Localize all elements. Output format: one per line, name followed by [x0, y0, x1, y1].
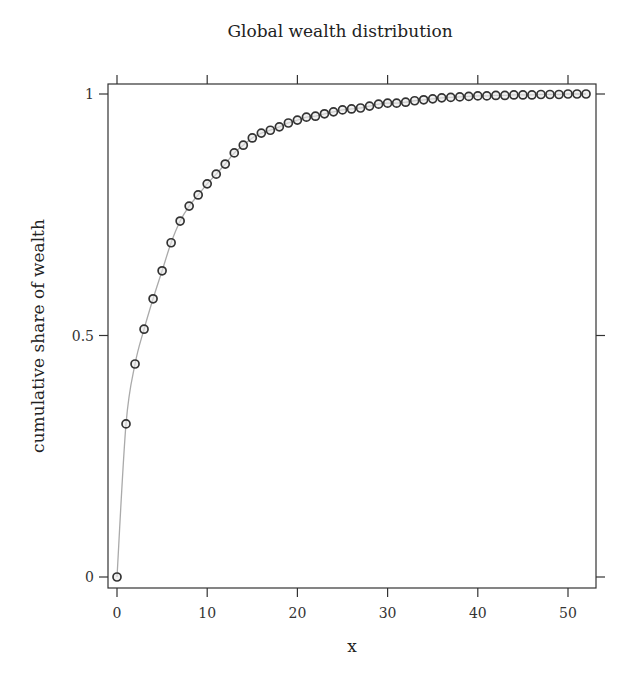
data-point-marker	[275, 123, 283, 131]
x-tick-label: 0	[113, 605, 122, 621]
data-point-marker	[582, 90, 590, 98]
x-tick-label: 10	[198, 605, 216, 621]
x-tick-label: 30	[379, 605, 397, 621]
data-point-marker	[329, 108, 337, 116]
data-point-marker	[131, 360, 139, 368]
data-point-marker	[474, 92, 482, 100]
x-axis-label: x	[347, 636, 357, 656]
data-point-marker	[158, 267, 166, 275]
y-tick-label: 0.5	[72, 328, 94, 344]
data-point-marker	[176, 217, 184, 225]
data-point-marker	[203, 180, 211, 188]
data-point-marker	[402, 98, 410, 106]
data-point-marker	[393, 99, 401, 107]
data-point-marker	[257, 129, 265, 137]
data-point-marker	[483, 92, 491, 100]
data-point-marker	[357, 104, 365, 112]
data-point-marker	[429, 95, 437, 103]
chart: Global wealth distribution 0102030405000…	[0, 0, 635, 684]
data-point-marker	[564, 90, 572, 98]
data-point-marker	[302, 113, 310, 121]
x-tick-label: 20	[288, 605, 306, 621]
data-point-marker	[510, 91, 518, 99]
data-point-marker	[339, 106, 347, 114]
x-tick-label: 50	[559, 605, 577, 621]
data-point-marker	[293, 116, 301, 124]
data-points	[113, 90, 590, 581]
chart-title: Global wealth distribution	[227, 21, 452, 41]
data-point-marker	[573, 90, 581, 98]
data-point-marker	[194, 191, 202, 199]
data-point-marker	[311, 112, 319, 120]
data-point-marker	[167, 239, 175, 247]
data-point-marker	[546, 90, 554, 98]
y-tick-label: 1	[85, 86, 94, 102]
data-point-marker	[266, 126, 274, 134]
data-point-marker	[284, 119, 292, 127]
data-point-marker	[384, 99, 392, 107]
data-point-marker	[140, 325, 148, 333]
data-point-marker	[230, 149, 238, 157]
data-point-marker	[528, 91, 536, 99]
data-point-marker	[185, 202, 193, 210]
axis-ticks: 0102030405000.51	[72, 75, 605, 621]
data-point-marker	[375, 100, 383, 108]
data-point-marker	[501, 91, 509, 99]
data-point-marker	[248, 134, 256, 142]
data-point-marker	[320, 110, 328, 118]
plot-frame	[108, 84, 596, 588]
data-point-marker	[239, 141, 247, 149]
x-tick-label: 40	[469, 605, 487, 621]
data-point-marker	[366, 102, 374, 110]
data-point-marker	[456, 93, 464, 101]
data-point-marker	[113, 573, 121, 581]
data-point-marker	[348, 105, 356, 113]
data-point-marker	[411, 97, 419, 105]
data-point-marker	[465, 92, 473, 100]
data-point-marker	[212, 170, 220, 178]
data-point-marker	[537, 90, 545, 98]
y-axis-label: cumulative share of wealth	[28, 219, 48, 453]
series-line	[117, 94, 586, 577]
data-point-marker	[438, 94, 446, 102]
data-point-marker	[519, 91, 527, 99]
data-point-marker	[149, 295, 157, 303]
y-tick-label: 0	[85, 569, 94, 585]
data-point-marker	[221, 160, 229, 168]
data-point-marker	[492, 91, 500, 99]
data-point-marker	[122, 420, 130, 428]
data-point-marker	[555, 90, 563, 98]
data-point-marker	[420, 96, 428, 104]
data-point-marker	[447, 93, 455, 101]
